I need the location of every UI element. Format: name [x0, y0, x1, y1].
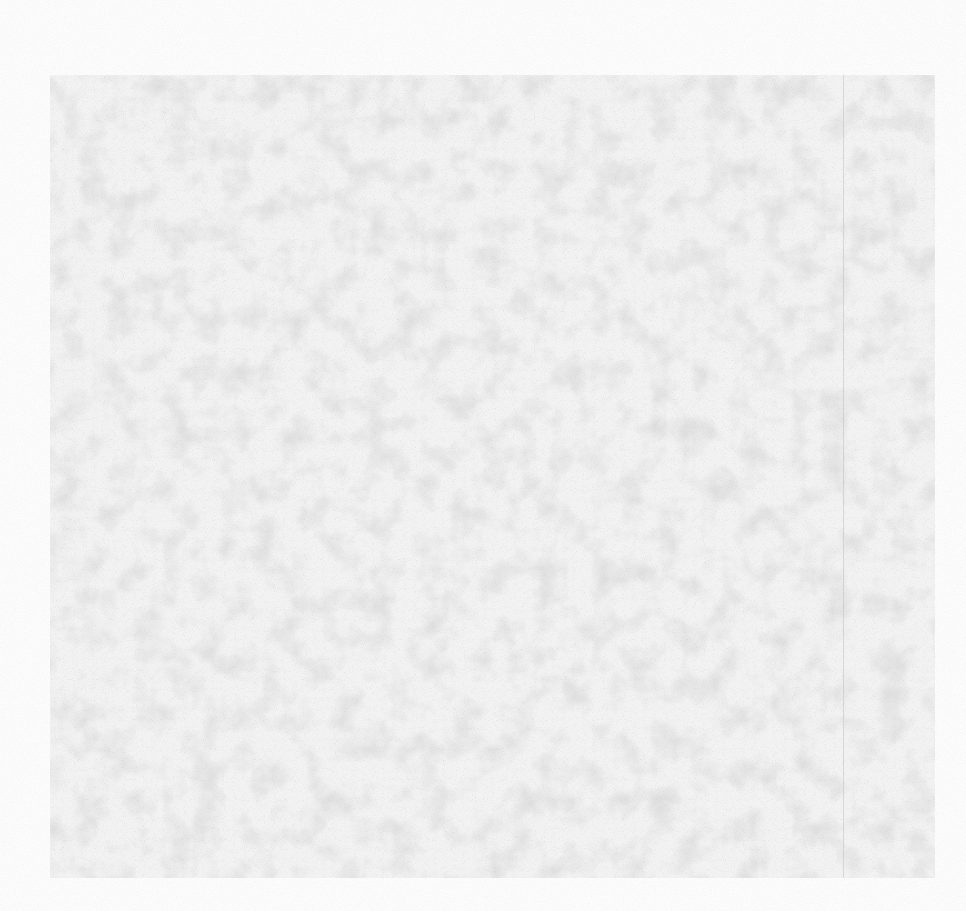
panel-noise-texture — [50, 75, 935, 878]
blank-noisy-page — [0, 0, 966, 911]
faint-vertical-line — [843, 75, 844, 878]
speckled-content-panel — [50, 75, 935, 878]
